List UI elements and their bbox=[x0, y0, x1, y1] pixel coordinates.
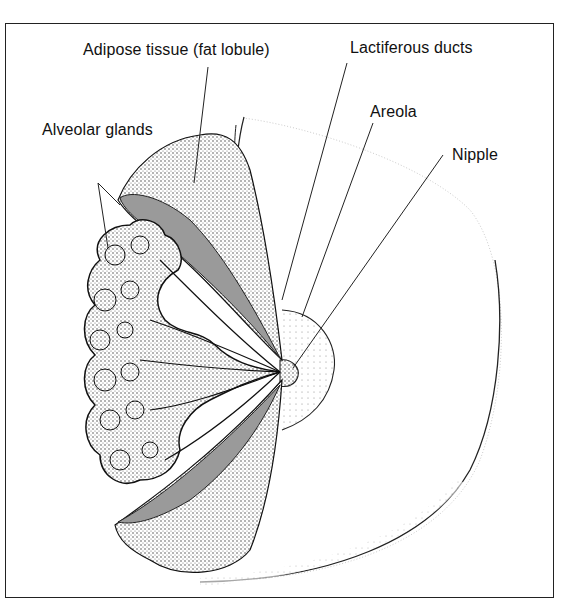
label-areola: Areola bbox=[370, 103, 417, 121]
breast-anatomy-illustration bbox=[0, 0, 565, 604]
label-adipose-tissue: Adipose tissue (fat lobule) bbox=[83, 41, 270, 59]
leader-areola bbox=[302, 123, 373, 317]
leader-lactiferous bbox=[282, 63, 347, 300]
leader-nipple bbox=[293, 155, 443, 368]
label-nipple: Nipple bbox=[452, 146, 498, 164]
label-alveolar-glands: Alveolar glands bbox=[42, 121, 153, 139]
label-lactiferous-ducts: Lactiferous ducts bbox=[350, 39, 473, 57]
